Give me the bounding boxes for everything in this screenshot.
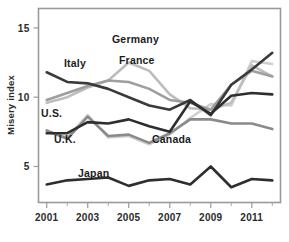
- y-tick-label: 10: [18, 92, 30, 103]
- x-tick-label: 2003: [76, 212, 100, 223]
- series-label-uk: U.K.: [54, 133, 76, 145]
- chart-canvas: 51015 200120032005200720092011 GermanyFr…: [0, 0, 289, 242]
- series-line-us: [47, 93, 273, 133]
- x-tick-label: 2009: [199, 212, 223, 223]
- series-label-germany: Germany: [112, 33, 159, 45]
- y-axis-title-text: Misery index: [5, 75, 16, 135]
- plot-frame: [39, 9, 281, 203]
- x-tick-label: 2001: [35, 212, 59, 223]
- y-tick-label: 5: [24, 161, 30, 172]
- y-axis-tick-labels: 51015: [18, 23, 30, 173]
- x-tick-label: 2011: [240, 212, 263, 223]
- x-tick-label: 2007: [158, 212, 182, 223]
- series-line-germany: [47, 63, 273, 110]
- x-tick-label: 2005: [117, 212, 141, 223]
- y-tick-label: 15: [18, 23, 30, 34]
- series-label-canada: Canada: [152, 133, 191, 145]
- series-label-japan: Japan: [78, 167, 109, 179]
- series-label-france: France: [119, 54, 155, 66]
- series-label-italy: Italy: [64, 57, 86, 69]
- series-label-us: U.S.: [41, 107, 62, 119]
- y-axis-title: Misery index: [5, 75, 16, 135]
- series-line-canada: [47, 61, 273, 144]
- misery-index-chart-figure: 51015 200120032005200720092011 GermanyFr…: [0, 0, 289, 242]
- series-annotations-group: GermanyFranceItalyU.S.U.K.CanadaJapan: [41, 33, 191, 179]
- x-axis-tick-labels: 200120032005200720092011: [35, 212, 263, 223]
